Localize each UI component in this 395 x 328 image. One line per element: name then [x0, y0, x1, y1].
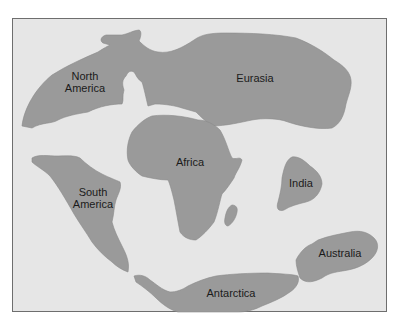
landmass-madagascar — [225, 205, 238, 226]
label-india: India — [284, 177, 318, 189]
label-north-america: North America — [60, 70, 110, 94]
label-antarctica: Antarctica — [196, 287, 266, 299]
label-africa: Africa — [170, 156, 210, 168]
label-eurasia: Eurasia — [230, 72, 280, 84]
landmass-south-america — [32, 156, 129, 273]
label-south-america: South America — [68, 186, 118, 210]
label-australia: Australia — [310, 247, 370, 259]
